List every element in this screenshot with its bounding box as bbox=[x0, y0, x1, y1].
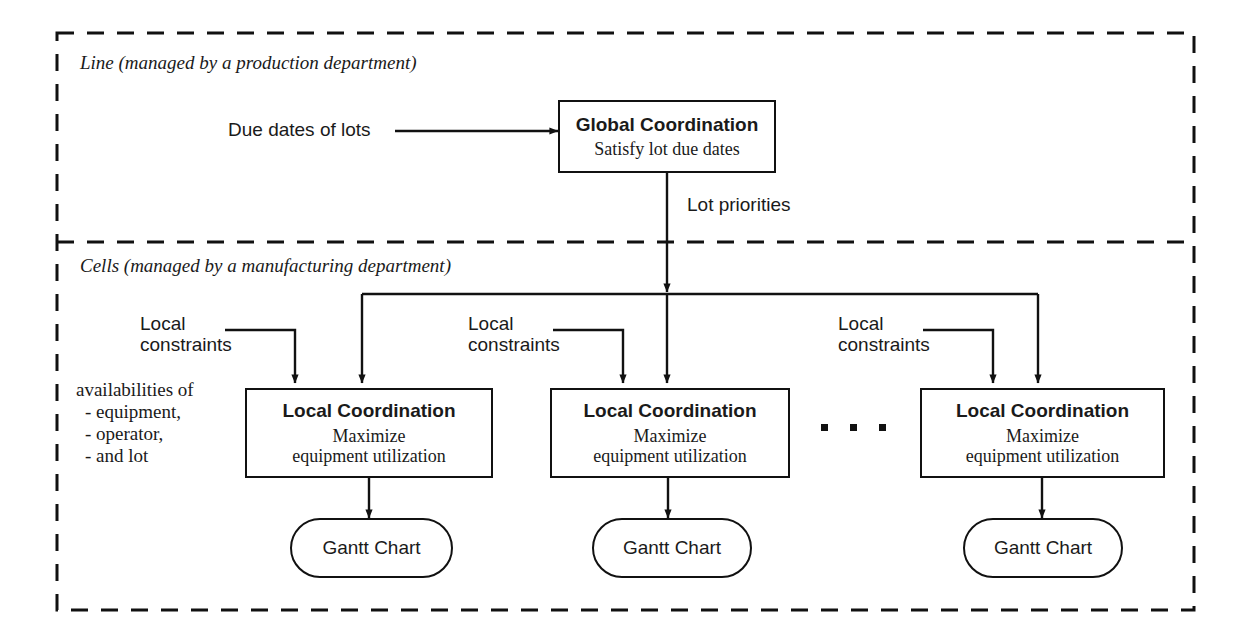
section-label-line: Line (managed by a production department… bbox=[80, 52, 417, 73]
local-coordination-subtitle-line1: Maximize bbox=[634, 426, 707, 446]
diagram-canvas: Line (managed by a production department… bbox=[0, 0, 1244, 640]
connector-constraints-3 bbox=[923, 330, 993, 383]
label-local-constraints-2: Local constraints bbox=[468, 313, 560, 356]
gantt-chart-label: Gantt Chart bbox=[994, 537, 1092, 559]
node-gantt-chart-3[interactable]: Gantt Chart bbox=[963, 518, 1123, 578]
node-local-coordination-1[interactable]: Local Coordination Maximize equipment ut… bbox=[245, 388, 493, 478]
node-global-coordination[interactable]: Global Coordination Satisfy lot due date… bbox=[558, 100, 776, 173]
local-coordination-subtitle-line2: equipment utilization bbox=[966, 446, 1119, 466]
local-coordination-subtitle-line2: equipment utilization bbox=[292, 446, 445, 466]
ellipsis-dot bbox=[850, 424, 857, 431]
global-coordination-title: Global Coordination bbox=[576, 114, 759, 136]
availabilities-item: - equipment, bbox=[76, 401, 194, 423]
global-coordination-subtitle: Satisfy lot due dates bbox=[594, 139, 739, 159]
local-coordination-subtitle-line2: equipment utilization bbox=[593, 446, 746, 466]
node-local-coordination-3[interactable]: Local Coordination Maximize equipment ut… bbox=[920, 388, 1165, 478]
label-due-dates-of-lots: Due dates of lots bbox=[228, 119, 371, 140]
availabilities-item: - operator, bbox=[76, 423, 194, 445]
section-label-cells: Cells (managed by a manufacturing depart… bbox=[80, 255, 451, 276]
node-gantt-chart-2[interactable]: Gantt Chart bbox=[592, 518, 752, 578]
label-local-constraints-1: Local constraints bbox=[140, 313, 232, 356]
availabilities-item: - and lot bbox=[76, 445, 194, 467]
availabilities-heading: availabilities of bbox=[76, 379, 194, 401]
gantt-chart-label: Gantt Chart bbox=[322, 537, 420, 559]
connector-constraints-1 bbox=[225, 330, 295, 383]
node-gantt-chart-1[interactable]: Gantt Chart bbox=[290, 518, 453, 578]
availabilities-group: availabilities of - equipment, - operato… bbox=[76, 379, 194, 467]
label-local-constraints-3: Local constraints bbox=[838, 313, 930, 356]
local-coordination-subtitle-line1: Maximize bbox=[333, 426, 406, 446]
local-coordination-title: Local Coordination bbox=[282, 400, 455, 422]
node-local-coordination-2[interactable]: Local Coordination Maximize equipment ut… bbox=[550, 388, 790, 478]
local-coordination-title: Local Coordination bbox=[956, 400, 1129, 422]
label-lot-priorities: Lot priorities bbox=[687, 194, 791, 215]
local-coordination-subtitle-line1: Maximize bbox=[1006, 426, 1079, 446]
gantt-chart-label: Gantt Chart bbox=[623, 537, 721, 559]
connector-constraints-2 bbox=[553, 330, 623, 383]
ellipsis-dot bbox=[879, 424, 886, 431]
ellipsis-dot bbox=[821, 424, 828, 431]
ellipsis-more-cells bbox=[821, 424, 886, 431]
local-coordination-title: Local Coordination bbox=[583, 400, 756, 422]
